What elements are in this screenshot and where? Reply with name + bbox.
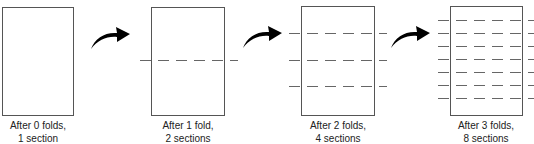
curved-arrow-right-icon xyxy=(89,24,131,50)
caption-line-1: After 2 folds, xyxy=(283,119,393,132)
caption-line-2: 1 section xyxy=(0,132,93,144)
caption-line-2: 8 sections xyxy=(431,132,534,144)
caption-line-2: 4 sections xyxy=(283,132,393,144)
curved-arrow-right-icon xyxy=(241,23,283,49)
caption-line-1: After 3 folds, xyxy=(431,119,534,132)
caption-line-1: After 1 fold, xyxy=(133,119,243,132)
curved-arrow-right-icon xyxy=(389,23,431,49)
sheet-0-folds xyxy=(2,7,74,116)
fold-lines xyxy=(438,0,534,120)
caption-line-1: After 0 folds, xyxy=(0,119,93,132)
caption-line-2: 2 sections xyxy=(133,132,243,144)
caption-0-folds: After 0 folds, 1 section xyxy=(0,119,93,144)
caption-2-folds: After 2 folds, 4 sections xyxy=(283,119,393,144)
fold-lines xyxy=(289,0,387,120)
caption-3-folds: After 3 folds, 8 sections xyxy=(431,119,534,144)
paper-folding-diagram: After 0 folds, 1 section After 1 fold, 2… xyxy=(0,0,534,144)
caption-1-fold: After 1 fold, 2 sections xyxy=(133,119,243,144)
fold-line xyxy=(140,59,238,62)
